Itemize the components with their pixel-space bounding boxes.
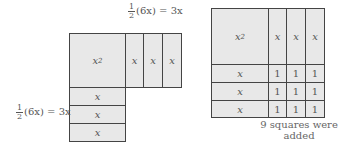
left-side-label: 12(6x) = 3x [16,104,71,121]
unit-square: 1 [305,64,325,83]
right-left-strip-3: x [211,100,269,118]
unit-square: 1 [286,82,306,101]
unit-square: 1 [286,100,306,118]
left-right-strip-3: x [162,33,182,88]
left-right-strip-1: x [125,33,144,88]
right-x-squared-square: x2 [211,8,269,65]
unit-square: 1 [268,64,287,83]
right-top-strip-3: x [305,8,325,65]
left-top-label: 12(6x) = 3x [128,3,183,20]
unit-square: 1 [286,64,306,83]
left-bottom-strip-3: x [69,123,126,142]
unit-square: 1 [305,82,325,101]
unit-square: 1 [305,100,325,118]
left-bottom-strip-1: x [69,87,126,106]
right-top-strip-2: x [286,8,306,65]
left-bottom-strip-2: x [69,105,126,124]
unit-square: 1 [268,82,287,101]
one-half-fraction: 12 [128,3,135,20]
right-left-strip-2: x [211,82,269,101]
one-half-fraction: 12 [16,104,23,121]
right-top-strip-1: x [268,8,287,65]
left-right-strip-2: x [143,33,163,88]
right-left-strip-1: x [211,64,269,83]
unit-square: 1 [268,100,287,118]
left-x-squared-square: x2 [69,33,126,88]
right-caption: 9 squares were added [260,119,338,141]
